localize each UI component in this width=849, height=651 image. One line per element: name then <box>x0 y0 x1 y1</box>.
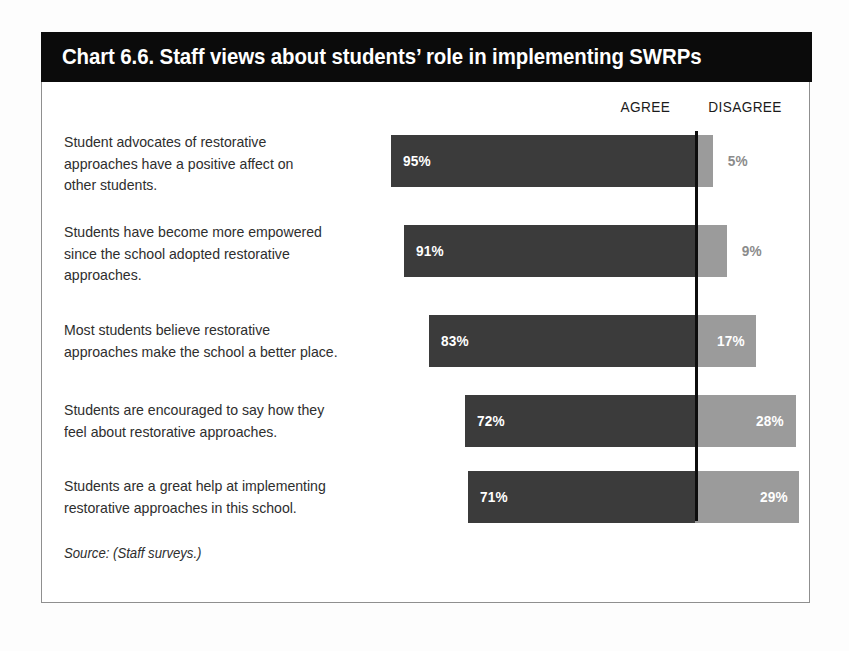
bar-segment-agree: 91% <box>404 225 695 277</box>
bar-segment-disagree: 17% <box>695 315 756 367</box>
bar-value-agree: 91% <box>416 243 444 259</box>
chart-title-band: Chart 6.6. Staff views about students’ r… <box>41 32 812 82</box>
bar-row-label: Students are encouraged to say how theyf… <box>64 399 351 442</box>
bar-group: 72%28% <box>465 395 796 447</box>
bar-group: 91%9% <box>404 225 728 277</box>
bar-row-label-line: Most students believe restorative <box>64 319 351 341</box>
plot-area: Student advocates of restorativeapproach… <box>42 121 811 521</box>
bar-segment-disagree <box>695 225 727 277</box>
bar-value-disagree: 9% <box>742 243 762 259</box>
bar-value-disagree: 28% <box>756 413 784 429</box>
bar-value-agree: 83% <box>441 333 469 349</box>
bar-segment-disagree: 29% <box>695 471 799 523</box>
bar-value-agree: 95% <box>403 153 431 169</box>
bar-group: 83%17% <box>429 315 756 367</box>
bar-row-label-line: other students. <box>64 174 351 196</box>
bar-row-label: Students have become more empoweredsince… <box>64 221 351 286</box>
bar-row-label: Students are a great help at implementin… <box>64 475 351 518</box>
bar-segment-disagree <box>695 135 713 187</box>
bar-segment-agree: 72% <box>465 395 695 447</box>
bar-value-disagree: 29% <box>760 489 788 505</box>
column-header-agree: AGREE <box>621 99 671 115</box>
column-header-disagree: DISAGREE <box>708 99 781 115</box>
bar-row-label-line: approaches have a positive affect on <box>64 153 351 175</box>
bar-value-agree: 72% <box>476 413 504 429</box>
bar-row-label-line: Student advocates of restorative <box>64 131 351 153</box>
bar-value-disagree: 17% <box>716 333 744 349</box>
bar-group: 71%29% <box>468 471 800 523</box>
bar-row-label-line: Students are encouraged to say how they <box>64 399 351 421</box>
bar-row-label: Student advocates of restorativeapproach… <box>64 131 351 196</box>
source-note: Source: (Staff surveys.) <box>64 545 202 561</box>
chart-title: Chart 6.6. Staff views about students’ r… <box>41 45 702 70</box>
bar-value-agree: 71% <box>480 489 508 505</box>
bar-row-label-line: Students have become more empowered <box>64 221 351 243</box>
bar-row-label-line: approaches. <box>64 264 351 286</box>
chart-frame: Chart 6.6. Staff views about students’ r… <box>41 32 810 603</box>
bar-row-label-line: approaches make the school a better plac… <box>64 341 351 363</box>
bar-row-label-line: Students are a great help at implementin… <box>64 475 351 497</box>
bar-row-label-line: restorative approaches in this school. <box>64 497 351 519</box>
bar-row-label-line: since the school adopted restorative <box>64 243 351 265</box>
axis-boundary-line <box>695 131 698 521</box>
bar-segment-agree: 95% <box>391 135 695 187</box>
column-header-row: AGREE DISAGREE <box>42 99 811 121</box>
bar-value-disagree: 5% <box>728 153 748 169</box>
bar-group: 95%5% <box>391 135 713 187</box>
bar-segment-agree: 71% <box>468 471 695 523</box>
bar-segment-agree: 83% <box>429 315 695 367</box>
bar-row-label: Most students believe restorativeapproac… <box>64 319 351 362</box>
bar-segment-disagree: 28% <box>695 395 796 447</box>
bar-row-label-line: feel about restorative approaches. <box>64 421 351 443</box>
